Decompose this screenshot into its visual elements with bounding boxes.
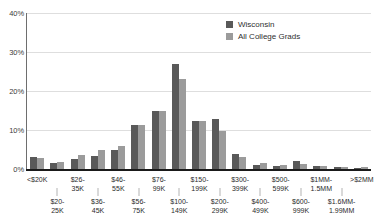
bar[interactable] bbox=[293, 161, 300, 169]
y-axis-tick-label: 10% bbox=[0, 126, 24, 135]
bar-group bbox=[128, 13, 148, 169]
x-axis-tick-mark bbox=[138, 188, 139, 196]
bar[interactable] bbox=[78, 155, 85, 169]
y-axis-tick-label: 40% bbox=[0, 9, 24, 18]
bar[interactable] bbox=[30, 157, 37, 169]
y-axis-tick-label: 30% bbox=[0, 48, 24, 57]
bar[interactable] bbox=[232, 154, 239, 169]
y-axis-tick-label: 20% bbox=[0, 87, 24, 96]
bar[interactable] bbox=[199, 121, 206, 169]
bar[interactable] bbox=[192, 121, 199, 169]
legend-swatch-icon bbox=[226, 33, 233, 40]
plot-area bbox=[26, 13, 371, 171]
bar[interactable] bbox=[118, 146, 125, 169]
bar-group bbox=[67, 13, 87, 169]
legend-swatch-icon bbox=[226, 21, 233, 28]
legend-item-wisconsin[interactable]: Wisconsin bbox=[226, 20, 300, 29]
legend-item-label: All College Grads bbox=[238, 32, 300, 41]
bar-group bbox=[47, 13, 67, 169]
bar-group bbox=[148, 13, 168, 169]
x-axis-tick-mark bbox=[219, 188, 220, 196]
bar-group bbox=[351, 13, 371, 169]
x-axis-tick-label: >$2MM bbox=[345, 176, 377, 185]
bar[interactable] bbox=[131, 125, 138, 169]
bar-group bbox=[108, 13, 128, 169]
x-axis-tick-mark bbox=[341, 188, 342, 196]
bar[interactable] bbox=[71, 159, 78, 169]
x-axis-tick-mark bbox=[260, 188, 261, 196]
bar[interactable] bbox=[179, 79, 186, 169]
bar-groups bbox=[27, 13, 371, 169]
x-axis-tick-mark bbox=[301, 188, 302, 196]
bar[interactable] bbox=[212, 119, 219, 169]
x-axis-label-cell: >$2MM bbox=[352, 176, 372, 221]
bar-group bbox=[27, 13, 47, 169]
bar[interactable] bbox=[57, 162, 64, 169]
chart-legend: Wisconsin All College Grads bbox=[226, 20, 300, 41]
legend-item-all-college-grads[interactable]: All College Grads bbox=[226, 32, 300, 41]
bar[interactable] bbox=[152, 111, 159, 169]
x-axis-tick-mark bbox=[179, 188, 180, 196]
bar[interactable] bbox=[37, 158, 44, 169]
x-axis-tick-mark bbox=[98, 188, 99, 196]
bar[interactable] bbox=[172, 64, 179, 169]
bar-group bbox=[331, 13, 351, 169]
bar[interactable] bbox=[111, 150, 118, 169]
legend-item-label: Wisconsin bbox=[238, 20, 274, 29]
x-axis-line bbox=[26, 169, 371, 171]
bar[interactable] bbox=[159, 111, 166, 169]
bar[interactable] bbox=[219, 131, 226, 169]
bar-group bbox=[169, 13, 189, 169]
bar-group bbox=[88, 13, 108, 169]
bar-group bbox=[310, 13, 330, 169]
y-axis-tick-label: 0% bbox=[0, 165, 24, 174]
x-axis-labels: <$20K$20- 25K$26- 35K$36- 45K$46- 55K$56… bbox=[27, 176, 372, 221]
bar[interactable] bbox=[91, 156, 98, 169]
x-axis-tick-mark bbox=[57, 188, 58, 196]
income-distribution-bar-chart: 40%30%20%10%0% Wisconsin All College Gra… bbox=[0, 0, 377, 221]
bar[interactable] bbox=[138, 125, 145, 169]
bar-group bbox=[189, 13, 209, 169]
bar[interactable] bbox=[239, 157, 246, 169]
bar[interactable] bbox=[98, 150, 105, 170]
